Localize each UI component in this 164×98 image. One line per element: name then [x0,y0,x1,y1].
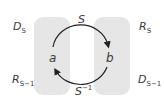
element-a: a [49,52,56,64]
bottom-arc-arrow [56,67,107,84]
mapping-diagram: DS RS−1 RS DS−1 a b S S−1 [0,0,164,98]
left-top-label: DS [13,21,26,35]
top-arrow-label: S [78,14,85,25]
element-b: b [106,52,114,64]
left-bottom-label: RS−1 [12,74,34,88]
right-top-label: RS [139,21,151,35]
top-arc-arrow [53,25,108,47]
bottom-arrow-label: S−1 [75,85,92,97]
right-bottom-label: DS−1 [138,74,161,88]
